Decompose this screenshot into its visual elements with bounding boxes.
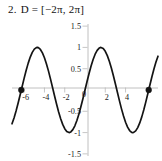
x-tick-label: -4 xyxy=(43,93,50,102)
endpoint-dot xyxy=(146,87,152,93)
y-tick-label: -1.5 xyxy=(68,150,81,159)
y-tick-label: 0.5 xyxy=(71,65,81,74)
problem-header: 2.D = [−2π, 2π] xyxy=(8,3,84,15)
origin-tick-label: 0 xyxy=(82,90,86,99)
y-tick-label: 1.5 xyxy=(71,22,81,31)
plot-area: -6-4-224 1.510.5-0.5-1-1.5 0 xyxy=(0,18,162,161)
y-tick-label: -0.5 xyxy=(68,107,81,116)
domain-statement: D = [−2π, 2π] xyxy=(21,3,84,15)
x-tick-label: -2 xyxy=(63,93,70,102)
x-tick-label: -6 xyxy=(22,93,29,102)
x-tick-labels: -6-4-224 xyxy=(22,93,129,102)
y-tick-label: -1 xyxy=(74,129,81,138)
sine-curve-chart: -6-4-224 1.510.5-0.5-1-1.5 0 xyxy=(0,18,162,161)
problem-number: 2. xyxy=(8,3,17,15)
graph-figure: 2.D = [−2π, 2π] -6-4-224 1.510.5-0.5-1-1… xyxy=(0,0,162,161)
y-tick-labels: 1.510.5-0.5-1-1.5 xyxy=(68,22,81,159)
x-tick-label: 4 xyxy=(125,93,129,102)
x-tick-label: 2 xyxy=(105,93,109,102)
y-tick-label: 1 xyxy=(77,43,81,52)
